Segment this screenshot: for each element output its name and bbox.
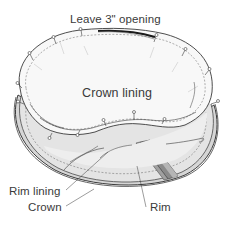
leader-crown	[66, 189, 94, 206]
label-crown: Crown	[28, 202, 62, 214]
label-crown-lining: Crown lining	[82, 87, 152, 100]
label-leave-opening: Leave 3" opening	[70, 14, 161, 26]
label-rim-lining: Rim lining	[9, 186, 61, 198]
label-rim: Rim	[150, 202, 171, 214]
pin-icon	[211, 100, 220, 105]
crown-lining	[19, 28, 212, 134]
hat-lining-illustration	[0, 0, 232, 234]
